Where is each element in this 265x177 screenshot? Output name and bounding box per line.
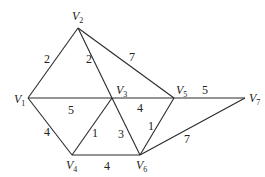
edge-weight-label: 5 <box>68 103 74 117</box>
edge-weight-label: 4 <box>137 101 143 115</box>
edge-weight-label: 2 <box>86 52 92 66</box>
edge-weight-label: 4 <box>44 125 50 139</box>
edge-weight-label: 1 <box>148 119 154 133</box>
edge-weight-label: 7 <box>184 132 190 146</box>
vertex-label-v2: V2 <box>72 9 83 25</box>
edge-v1-v2 <box>28 28 78 98</box>
edge-v1-v4 <box>28 98 72 155</box>
vertex-label-v3: V3 <box>116 83 127 99</box>
edge-v3-v6 <box>112 98 140 155</box>
graph-edges <box>28 28 245 155</box>
edge-weight-label: 2 <box>44 52 50 66</box>
edge-v2-v3 <box>78 28 112 98</box>
vertex-label-v6: V6 <box>136 158 147 174</box>
edge-weight-label: 1 <box>92 126 98 140</box>
edge-v6-v7 <box>140 98 245 155</box>
vertex-label-v5: V5 <box>176 83 187 99</box>
vertex-label-v1: V1 <box>14 92 25 108</box>
vertex-label-v4: V4 <box>66 158 77 174</box>
edge-v2-v5 <box>78 28 174 98</box>
edge-weight-label: 7 <box>129 50 135 64</box>
edge-weight-label: 4 <box>104 159 110 173</box>
edge-v5-v6 <box>140 98 174 155</box>
edge-weight-label: 5 <box>202 83 208 97</box>
weighted-graph-diagram: 227541341574 V1V2V3V4V5V6V7 <box>0 0 265 177</box>
edge-weight-label: 3 <box>118 127 124 141</box>
vertex-label-v7: V7 <box>249 91 260 107</box>
